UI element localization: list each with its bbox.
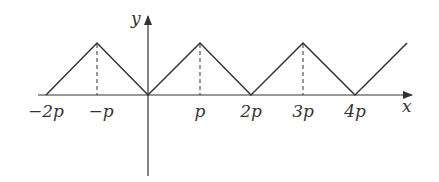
tick-label: 4p [343,101,366,121]
triangle-wave-diagram: y x −2p −p p 2p 3p 4p [0,0,439,182]
tick-label: 2p [239,101,262,121]
y-axis-label: y [130,8,141,28]
tick-label: −2p [28,101,64,121]
tick-label: −p [88,101,113,121]
tick-label: 3p [292,101,314,121]
wave-line [46,43,407,95]
tick-label: p [195,101,206,121]
x-axis-label: x [402,96,412,116]
